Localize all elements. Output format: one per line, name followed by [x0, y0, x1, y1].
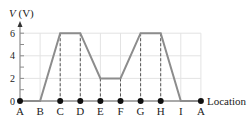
x-tick-label: C	[57, 105, 64, 117]
x-tick-label: F	[117, 105, 123, 117]
y-axis-arrow-icon	[18, 21, 23, 27]
voltage-location-chart: 0246 ABCDEFGHIA Location V (V)	[0, 0, 250, 119]
dashed-drop-lines	[60, 33, 161, 101]
x-tick-label: D	[76, 105, 84, 117]
x-tick-labels: ABCDEFGHIA	[16, 105, 205, 117]
y-tick-label: 2	[10, 73, 15, 84]
location-marker-e	[97, 98, 103, 104]
y-axis-label: V (V)	[9, 7, 34, 20]
x-tick-label: B	[36, 105, 43, 117]
location-marker-g	[138, 98, 144, 104]
x-axis-label: Location	[207, 95, 247, 107]
x-tick-label: A	[197, 105, 205, 117]
voltage-line	[20, 33, 201, 101]
y-tick-label: 4	[10, 50, 15, 61]
x-tick-label: E	[97, 105, 104, 117]
y-tick-label: 0	[10, 96, 15, 107]
location-marker-a	[198, 98, 204, 104]
location-marker-c	[57, 98, 63, 104]
location-marker-d	[77, 98, 83, 104]
y-axis-label-unit: (V)	[16, 7, 34, 20]
location-marker-a	[17, 98, 23, 104]
x-tick-label: H	[157, 105, 165, 117]
location-marker-h	[158, 98, 164, 104]
x-tick-label: G	[137, 105, 145, 117]
location-marker-f	[118, 98, 124, 104]
grid	[20, 33, 201, 101]
x-tick-label: I	[179, 105, 183, 117]
x-tick-label: A	[16, 105, 24, 117]
y-axis: 0246	[10, 21, 24, 107]
y-tick-label: 6	[10, 28, 15, 39]
